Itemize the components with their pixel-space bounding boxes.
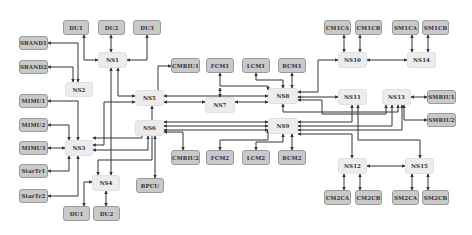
node-label: FCM2	[211, 155, 230, 161]
node-label: DU2	[105, 25, 119, 31]
node-label: NS9	[276, 123, 289, 129]
switch-node-ns2: NS2	[65, 82, 93, 97]
node-label: SM1CA	[394, 25, 417, 31]
device-node-sm1cb: SM1CB	[422, 20, 449, 35]
connection-line	[298, 105, 392, 126]
switch-node-ns3: NS3	[65, 140, 93, 156]
node-label: NS14	[413, 57, 430, 63]
node-label: NS10	[344, 57, 361, 63]
node-label: NS3	[72, 145, 85, 151]
connection-line	[118, 68, 135, 96]
device-node-cmriu1: CMRIU1	[171, 58, 200, 73]
device-node-fcm1: FCM1	[206, 58, 234, 73]
switch-node-ns1: NS1	[98, 52, 127, 68]
connection-line	[298, 134, 352, 158]
device-node-cm2ca: CM2CA	[324, 190, 351, 205]
node-label: NS6	[143, 125, 156, 131]
node-label: NS11	[344, 94, 361, 100]
node-label: MIMU2	[22, 122, 46, 128]
connection-line	[84, 182, 92, 206]
node-label: FCM1	[211, 63, 230, 69]
connection-line	[358, 105, 420, 158]
connection-line	[48, 101, 78, 140]
connection-line	[404, 105, 427, 120]
device-node-mimu2: MIMU2	[19, 118, 48, 132]
device-node-smriu1: SMRIU1	[427, 90, 456, 104]
device-node-rcm1: RCM1	[278, 58, 306, 73]
device-node-du2: DU2	[98, 20, 125, 35]
connection-line	[48, 156, 78, 196]
connection-line	[220, 73, 268, 90]
node-label: MIMU3	[22, 145, 46, 151]
node-label: NS2	[72, 87, 85, 93]
node-label: NS1	[106, 57, 119, 63]
device-node-lcm2: LCM2	[242, 150, 270, 165]
node-label: SM1CB	[424, 25, 447, 31]
node-label: NS13	[388, 94, 405, 100]
node-label: SM2CB	[424, 195, 447, 201]
device-node-startr2: StarTr2	[19, 189, 48, 203]
network-topology-diagram: DU1DU2DU3SBAND1SBAND2NS1NS2MIMU1MIMU2MIM…	[0, 0, 472, 235]
node-label: StarTr1	[21, 168, 45, 174]
switch-node-ns15: NS15	[405, 158, 434, 174]
device-node-mimu3: MIMU3	[19, 141, 48, 155]
node-label: CM1CB	[357, 25, 381, 31]
device-node-sm2ca: SM2CA	[392, 190, 419, 205]
node-label: CM1CA	[326, 25, 349, 31]
node-label: SMRIU1	[428, 94, 454, 100]
switch-node-ns5: NS5	[135, 90, 164, 106]
node-label: CMRIU1	[172, 63, 199, 69]
node-label: SMRIU2	[428, 117, 454, 123]
device-node-sm2cb: SM2CB	[422, 190, 449, 205]
device-node-startr1: StarTr1	[19, 164, 48, 178]
node-label: RCM2	[282, 155, 301, 161]
switch-node-ns10: NS10	[338, 52, 367, 68]
node-label: CMRIU2	[172, 155, 199, 161]
node-label: SBAND2	[20, 64, 47, 70]
device-node-du1: DU1	[63, 20, 89, 35]
switch-node-ns6: NS6	[135, 120, 164, 136]
node-label: StarTr2	[21, 193, 45, 199]
connection-line	[256, 134, 283, 150]
node-label: DU2	[100, 211, 114, 217]
device-node-du2: DU2	[93, 206, 120, 221]
node-label: NS7	[213, 102, 226, 108]
device-node-cmriu2: CMRIU2	[171, 150, 200, 165]
device-node-smriu2: SMRIU2	[427, 113, 456, 127]
device-node-rcm2: RCM2	[278, 150, 306, 165]
connection-line	[164, 132, 183, 150]
node-label: MIMU1	[22, 98, 46, 104]
device-node-cm1ca: CM1CA	[324, 20, 351, 35]
node-label: DU1	[70, 211, 84, 217]
connection-line	[283, 104, 398, 112]
device-node-sband1: SBAND1	[19, 36, 48, 50]
switch-node-ns4: NS4	[92, 175, 120, 191]
switch-node-ns13: NS13	[382, 89, 411, 105]
node-label: BPCU	[141, 183, 159, 189]
device-node-du3: DU3	[133, 20, 161, 35]
node-label: LCM2	[247, 155, 266, 161]
device-node-bpcu: BPCU	[136, 178, 164, 193]
device-node-cm1cb: CM1CB	[355, 20, 382, 35]
node-label: NS15	[411, 163, 428, 169]
node-label: CM2CA	[326, 195, 349, 201]
node-label: DU3	[140, 25, 154, 31]
connection-line	[84, 35, 98, 60]
switch-node-ns11: NS11	[338, 89, 367, 105]
node-label: DU1	[69, 25, 83, 31]
node-label: NS12	[344, 163, 361, 169]
connection-line	[48, 156, 69, 171]
node-label: NS8	[276, 93, 289, 99]
switch-node-ns12: NS12	[338, 158, 367, 174]
connection-line	[98, 106, 152, 175]
device-node-fcm2: FCM2	[206, 150, 234, 165]
switch-node-ns7: NS7	[205, 97, 235, 113]
switch-node-ns8: NS8	[268, 88, 298, 104]
node-label: LCM1	[247, 63, 266, 69]
node-label: NS5	[143, 95, 156, 101]
node-label: NS4	[99, 180, 112, 186]
device-node-sm1ca: SM1CA	[392, 20, 419, 35]
device-node-sband2: SBAND2	[19, 60, 48, 74]
connection-line	[48, 125, 69, 140]
connection-line	[48, 67, 73, 82]
